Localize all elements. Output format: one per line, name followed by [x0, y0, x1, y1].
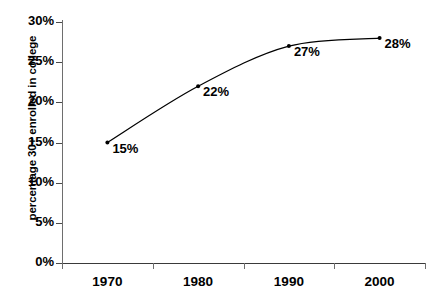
series-line-path: [107, 38, 379, 142]
data-point-label: 22%: [203, 84, 229, 99]
line-chart: percentage 30+ enrolled in college 0%5%1…: [0, 0, 433, 301]
series-line-group: [0, 0, 433, 301]
data-point-marker: [105, 141, 109, 145]
data-point-label: 27%: [294, 44, 320, 59]
series-markers: [105, 36, 381, 144]
data-point-marker: [196, 84, 200, 88]
data-point-marker: [287, 44, 291, 48]
data-point-label: 15%: [112, 141, 138, 156]
data-point-marker: [378, 36, 382, 40]
data-point-label: 28%: [385, 36, 411, 51]
